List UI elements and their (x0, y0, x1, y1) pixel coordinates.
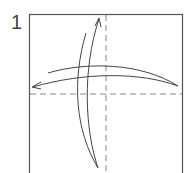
fold-diagram (0, 0, 193, 173)
vertical-fold-arrow-icon (78, 18, 101, 168)
horizontal-fold-arrow-icon (32, 66, 178, 89)
